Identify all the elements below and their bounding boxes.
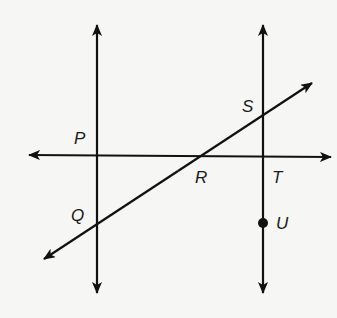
label-p: P (74, 129, 86, 148)
label-t: T (272, 168, 284, 187)
label-q: Q (71, 206, 84, 225)
geometry-diagram: P Q R S T U (0, 0, 337, 318)
label-r: R (195, 168, 207, 187)
label-s: S (242, 97, 254, 116)
horizontal-line (29, 155, 331, 157)
label-u: U (276, 214, 289, 233)
point-u-marker (258, 218, 268, 228)
